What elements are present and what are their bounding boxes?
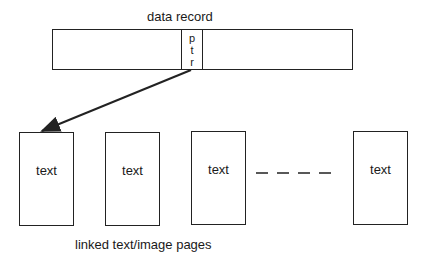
page-label: text bbox=[36, 163, 57, 225]
pointer-arrow bbox=[42, 70, 191, 131]
page-box-2: text bbox=[105, 132, 160, 226]
page-label: text bbox=[370, 162, 391, 224]
page-box-3: text bbox=[191, 131, 246, 225]
caption: linked text/image pages bbox=[75, 237, 212, 252]
page-box-4: text bbox=[353, 131, 408, 225]
page-label: text bbox=[122, 163, 143, 225]
page-box-1: text bbox=[19, 132, 74, 226]
page-label: text bbox=[208, 162, 229, 224]
